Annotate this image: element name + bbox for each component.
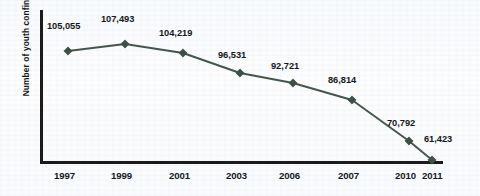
x-axis-tick-label: 2001 [169, 170, 190, 181]
x-axis-tick-label: 1999 [111, 170, 132, 181]
x-axis-tick-label: 1997 [54, 170, 75, 181]
data-point-label: 70,792 [387, 118, 415, 128]
data-point-label: 107,493 [101, 14, 134, 24]
data-point-label: 96,531 [218, 50, 246, 60]
y-axis-title: Number of youth confined [21, 0, 31, 98]
data-point-marker [121, 40, 129, 48]
data-point-label: 105,055 [47, 21, 80, 31]
x-axis-tick-label: 2006 [279, 170, 300, 181]
data-series-line [68, 44, 432, 160]
chart-container: Number of youth confined 105,055107,4931… [0, 0, 480, 196]
x-axis-tick-label: 2011 [422, 170, 442, 181]
x-axis-tick-label: 2007 [338, 170, 359, 181]
data-point-marker [289, 79, 297, 87]
data-point-marker [64, 47, 72, 55]
x-axis-tick-label: 2010 [395, 170, 416, 181]
data-point-label: 86,814 [328, 75, 356, 85]
data-point-marker [236, 69, 244, 77]
data-point-marker [179, 49, 187, 57]
data-point-label: 61,423 [424, 134, 452, 144]
data-point-label: 104,219 [159, 28, 192, 38]
data-point-markers [64, 40, 436, 164]
data-point-label: 92,721 [271, 61, 299, 71]
x-axis-tick-label: 2003 [226, 170, 247, 181]
